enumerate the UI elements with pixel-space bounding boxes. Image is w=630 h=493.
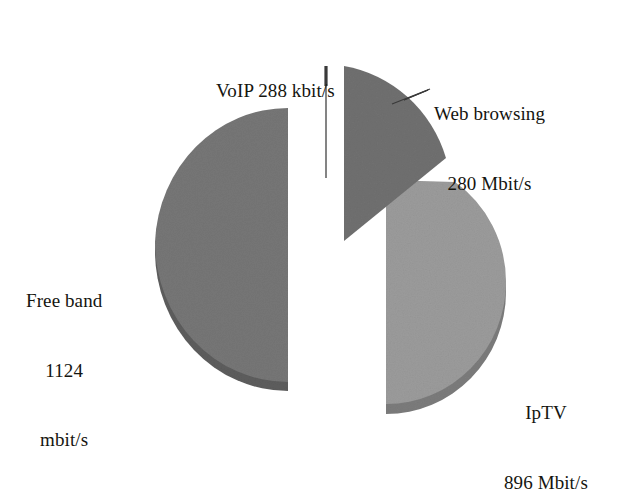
slice-label-voip-line1: VoIP 288 kbit/s xyxy=(216,79,335,102)
slice-label-free-band-line3: mbit/s xyxy=(26,428,102,451)
slice-label-free-band: Free band 1124 mbit/s xyxy=(26,243,102,493)
pie-slice-free-band[interactable] xyxy=(155,108,288,391)
slice-label-iptv: IpTV 896 Mbit/s xyxy=(504,355,588,493)
slice-label-web-browsing: Web browsing 280 Mbit/s xyxy=(434,56,545,241)
slice-label-iptv-line2: 896 Mbit/s xyxy=(504,471,588,493)
slice-label-free-band-line1: Free band xyxy=(26,289,102,312)
slice-label-web-browsing-line1: Web browsing xyxy=(434,102,545,125)
slice-label-iptv-line1: IpTV xyxy=(504,401,588,424)
slice-label-voip: VoIP 288 kbit/s xyxy=(216,33,335,149)
slice-label-web-browsing-line2: 280 Mbit/s xyxy=(434,172,545,195)
slice-label-free-band-line2: 1124 xyxy=(26,359,102,382)
